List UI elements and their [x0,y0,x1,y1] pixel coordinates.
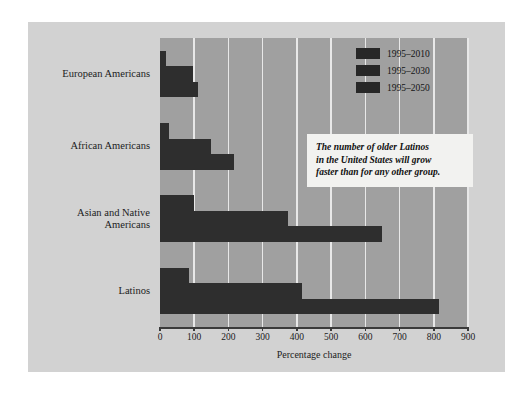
bar [160,226,382,242]
bar [160,211,288,227]
legend-item: 1995–2030 [356,65,430,76]
x-tick [467,327,469,331]
bar [160,268,189,284]
bar [160,51,166,67]
bar [160,283,302,299]
x-tick [159,327,161,331]
bar [160,82,198,98]
category-label: African Americans [70,140,150,152]
x-axis-title: Percentage change [160,349,468,360]
category-axis: European AmericansAfrican AmericansAsian… [28,38,158,327]
legend-swatch-icon [356,48,380,59]
legend-swatch-icon [356,82,380,93]
x-tick-label: 400 [290,332,304,342]
x-tick [296,327,298,331]
x-tick [262,327,264,331]
x-tick [228,327,230,331]
x-tick [433,327,435,331]
x-tick [399,327,401,331]
callout-text: The number of older Latinos in the Unite… [316,141,465,179]
bar [160,123,169,139]
legend-label: 1995–2050 [387,83,430,93]
bar [160,299,439,315]
category-label: European Americans [62,68,150,80]
bar [160,154,234,170]
category-label: Latinos [119,285,151,297]
legend-label: 1995–2010 [387,49,430,59]
bar [160,195,194,211]
legend-label: 1995–2030 [387,66,430,76]
legend-item: 1995–2010 [356,48,430,59]
x-tick-label: 300 [256,332,270,342]
x-tick-label: 700 [392,332,406,342]
x-tick [330,327,332,331]
chart-page: European AmericansAfrican AmericansAsian… [0,0,529,393]
x-tick-label: 200 [221,332,235,342]
x-tick [193,327,195,331]
bar [160,139,211,155]
x-tick-label: 600 [358,332,372,342]
x-tick-label: 500 [324,332,338,342]
category-label: Asian and Native Americans [77,207,150,231]
legend-swatch-icon [356,65,380,76]
x-tick-label: 900 [461,332,475,342]
x-tick-label: 800 [427,332,441,342]
x-axis-line [160,327,469,329]
legend-item: 1995–2050 [356,82,430,93]
callout-box: The number of older Latinos in the Unite… [307,134,473,187]
x-tick-label: 100 [187,332,201,342]
chart-legend: 1995–20101995–20301995–2050 [356,48,430,99]
x-tick-label: 0 [158,332,163,342]
x-tick [365,327,367,331]
bar [160,66,193,82]
